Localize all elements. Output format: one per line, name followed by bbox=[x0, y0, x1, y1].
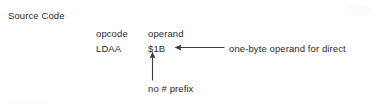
scan-artifact-top-right bbox=[345, 4, 371, 16]
callout-label-right: one-byte operand for direct bbox=[229, 44, 346, 54]
source-code-annotation-diagram: Source Code opcode operand LDAA $1B one-… bbox=[0, 0, 381, 109]
upward-arrow-icon bbox=[150, 52, 156, 81]
scan-artifact-bottom-left bbox=[8, 100, 48, 104]
section-title: Source Code bbox=[8, 11, 65, 21]
column-header-operand: operand bbox=[148, 29, 184, 39]
instruction-mnemonic: LDAA bbox=[96, 44, 121, 54]
column-header-opcode: opcode bbox=[96, 29, 128, 39]
instruction-operand: $1B bbox=[148, 44, 165, 54]
callout-label-bottom: no # prefix bbox=[148, 84, 193, 94]
leftward-arrow-icon bbox=[175, 45, 225, 51]
